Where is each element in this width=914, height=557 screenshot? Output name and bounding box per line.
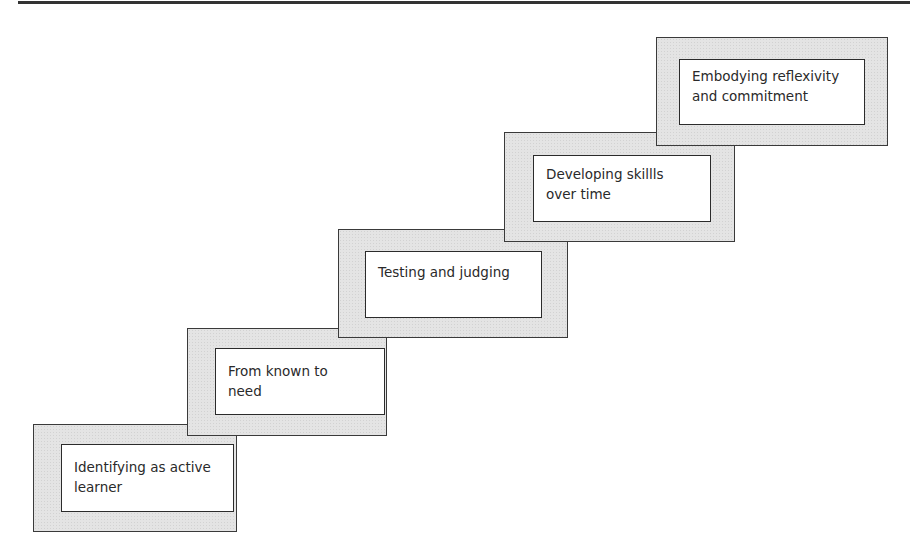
step-4-frame: Developing skillls over time [504, 132, 735, 242]
step-4-line-1: Developing skillls [546, 164, 700, 184]
step-3-box: Testing and judging [365, 251, 542, 318]
step-1-line-2: learner [74, 477, 223, 497]
top-rule [18, 1, 910, 4]
step-3-frame: Testing and judging [338, 229, 568, 338]
step-2-frame: From known to need [187, 328, 387, 436]
step-2-line-2: need [228, 381, 374, 401]
step-2-box: From known to need [215, 348, 385, 415]
step-5-line-2: and commitment [692, 86, 854, 106]
step-3-line-1: Testing and judging [378, 262, 531, 282]
step-5-box: Embodying reflexivity and commitment [679, 59, 865, 125]
step-5-frame: Embodying reflexivity and commitment [656, 37, 888, 146]
step-5-line-1: Embodying reflexivity [692, 66, 854, 86]
step-2-line-1: From known to [228, 361, 374, 381]
step-1-box: Identifying as active learner [61, 444, 234, 512]
step-1-line-1: Identifying as active [74, 457, 223, 477]
step-4-line-2: over time [546, 184, 700, 204]
step-1-frame: Identifying as active learner [33, 424, 237, 532]
step-4-box: Developing skillls over time [533, 155, 711, 222]
